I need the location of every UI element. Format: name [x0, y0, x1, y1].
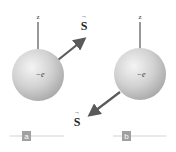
- charge-label-b: −e: [137, 70, 146, 79]
- panel-b: z −e → S b: [74, 13, 166, 141]
- spin-label-a: S: [81, 19, 88, 33]
- spin-label-b: S: [74, 115, 81, 129]
- z-axis-label-a: z: [36, 13, 39, 21]
- panel-tag-label-b: b: [124, 132, 129, 141]
- spin-arrow-a: [58, 40, 83, 60]
- spin-vector-label-a: → S: [81, 13, 88, 33]
- spin-arrow-b: [91, 92, 120, 114]
- electron-spin-diagram: z −e → S a z −e → S b: [0, 0, 176, 152]
- z-axis-label-b: z: [138, 13, 141, 21]
- spin-vector-label-b: → S: [74, 109, 81, 129]
- panel-tag-label-a: a: [24, 132, 29, 141]
- charge-label-a: −e: [36, 70, 45, 79]
